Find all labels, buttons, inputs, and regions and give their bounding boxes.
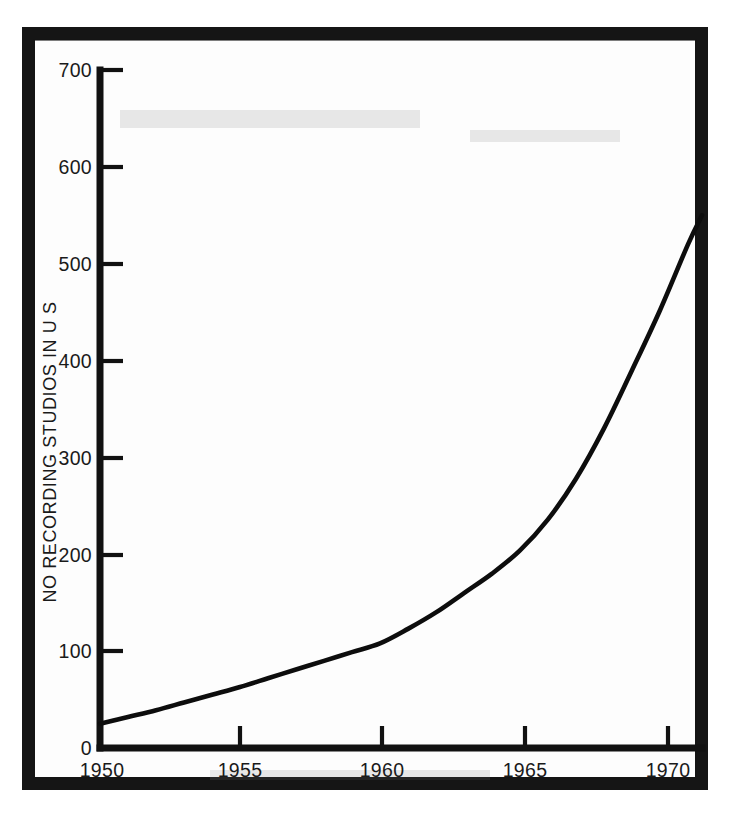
x-tick-label-1955: 1955 (218, 759, 263, 781)
y-tick-label-500: 500 (59, 253, 92, 275)
y-tick-label-100: 100 (59, 640, 92, 662)
y-tick-label-300: 300 (59, 447, 92, 469)
x-tick-label-1965: 1965 (503, 759, 548, 781)
y-tick-label-400: 400 (59, 350, 92, 372)
data-series-line (100, 215, 702, 724)
y-tick-label-0: 0 (81, 737, 92, 759)
line-chart-svg: 700 600 500 400 300 200 100 0 1950 1955 … (0, 0, 741, 817)
chart-plot-area: 700 600 500 400 300 200 100 0 1950 1955 … (0, 0, 741, 817)
y-tick-label-200: 200 (59, 544, 92, 566)
y-tick-label-700: 700 (59, 59, 92, 81)
y-tick-label-600: 600 (59, 156, 92, 178)
x-tick-label-1950: 1950 (80, 759, 125, 781)
x-tick-label-1960: 1960 (360, 759, 405, 781)
y-axis-title: NO RECORDING STUDIOS IN U S (40, 301, 60, 602)
figure-page: 700 600 500 400 300 200 100 0 1950 1955 … (0, 0, 741, 817)
x-tick-label-1970: 1970 (646, 759, 691, 781)
